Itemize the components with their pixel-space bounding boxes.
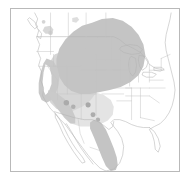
point-locality bbox=[86, 102, 91, 107]
range-polygon-outlier-saskatchewan bbox=[72, 17, 79, 23]
boundary-state-ga-fl bbox=[140, 118, 154, 121]
map-canvas bbox=[11, 9, 179, 171]
point-locality bbox=[91, 112, 96, 117]
range-polygon-core-sierra-madre bbox=[90, 120, 118, 171]
range-polygon-core-northern bbox=[56, 18, 145, 94]
point-locality bbox=[42, 20, 46, 24]
boundary-state-nc-sc bbox=[149, 96, 159, 103]
outline-lake-ontario bbox=[154, 67, 164, 71]
coastline-puget-sound bbox=[38, 30, 42, 39]
point-locality bbox=[64, 100, 70, 106]
boundary-state-new-england bbox=[161, 54, 170, 58]
range-map-figure bbox=[0, 0, 192, 180]
point-locality bbox=[71, 105, 76, 110]
coastline-atlantic bbox=[149, 13, 175, 152]
map-frame bbox=[10, 8, 180, 172]
